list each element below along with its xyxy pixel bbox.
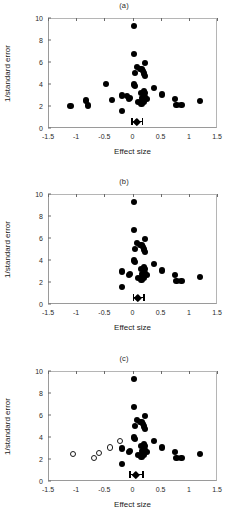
y-axis-tick-mark (48, 40, 51, 41)
y-axis-tick-mark (48, 415, 51, 416)
y-axis-tick-label: 6 (13, 235, 48, 242)
y-axis-tick-label: 2 (13, 103, 48, 110)
y-axis-tick-mark (48, 84, 51, 85)
x-axis-tick-label: 0 (118, 128, 148, 140)
observed-data-point (197, 98, 203, 104)
observed-data-point (103, 81, 109, 87)
x-axis-tick-mark (104, 194, 105, 197)
x-axis-tick-label: -1.5 (33, 304, 63, 316)
observed-data-point (142, 73, 148, 79)
observed-data-point (197, 451, 203, 457)
x-axis-tick-mark (217, 371, 218, 374)
y-axis-tick-mark (48, 393, 51, 394)
summary-error-bar-cap (142, 118, 143, 125)
y-axis-tick-label: 10 (13, 191, 48, 198)
imputed-data-point (117, 438, 123, 444)
x-axis-tick-label: 0.5 (146, 128, 176, 140)
observed-data-point (131, 227, 137, 233)
y-axis-tick-mark (48, 282, 51, 283)
observed-data-point (131, 404, 137, 410)
summary-error-bar-cap (129, 471, 130, 478)
observed-data-point (132, 70, 138, 76)
x-axis-tick-label: 0 (118, 304, 148, 316)
observed-data-point (119, 108, 125, 114)
y-axis-tick-label: 8 (13, 390, 48, 397)
panel-c-plot-area: 0246810-1.5-1-0.500.511.5 (48, 371, 217, 481)
y-axis-tick-mark (48, 216, 51, 217)
x-axis-tick-mark (48, 18, 49, 21)
observed-data-point (119, 445, 125, 451)
y-axis-tick-label: 8 (13, 213, 48, 220)
panel-b-title: (b) (0, 177, 248, 187)
y-axis-tick-label: 10 (13, 15, 48, 22)
x-axis-tick-mark (133, 371, 134, 374)
observed-data-point (126, 449, 132, 455)
y-axis-tick-label: 10 (13, 368, 48, 375)
panel-a-x-axis-title: Effect size (48, 147, 217, 156)
summary-effect-marker (134, 294, 142, 302)
summary-error-bar-cap (143, 294, 144, 301)
y-axis-tick-mark (48, 260, 51, 261)
x-axis-tick-mark (133, 194, 134, 197)
observed-data-point (67, 103, 73, 109)
observed-data-point (132, 259, 138, 265)
observed-data-point (132, 423, 138, 429)
panel-a-plot-area: 0246810-1.5-1-0.500.511.5 (48, 18, 217, 128)
x-axis-tick-mark (189, 194, 190, 197)
y-axis-tick-mark (48, 437, 51, 438)
panel-b-y-axis-label: 1/standard error (3, 221, 12, 278)
observed-data-point (131, 376, 137, 382)
y-axis-tick-mark (48, 459, 51, 460)
observed-data-point (159, 267, 165, 273)
x-axis-tick-mark (217, 18, 218, 21)
y-axis-tick-mark (48, 238, 51, 239)
observed-data-point (131, 199, 137, 205)
panel-c-x-axis-title: Effect size (48, 500, 217, 509)
x-axis-tick-label: -0.5 (89, 128, 119, 140)
x-axis-tick-label: 0 (118, 481, 148, 493)
x-axis-tick-label: 0.5 (146, 304, 176, 316)
panel-c-y-axis-title: 1/standard error (0, 371, 14, 481)
observed-data-point (173, 455, 179, 461)
x-axis-tick-mark (76, 194, 77, 197)
y-axis-tick-label: 2 (13, 279, 48, 286)
observed-data-point (159, 91, 165, 97)
observed-data-point (142, 426, 148, 432)
observed-data-point (126, 96, 132, 102)
observed-data-point (85, 102, 91, 108)
panel-a-y-axis-label: 1/standard error (3, 45, 12, 102)
x-axis-tick-mark (76, 18, 77, 21)
y-axis-tick-mark (48, 106, 51, 107)
imputed-data-point (91, 455, 97, 461)
panel-b-y-axis-title: 1/standard error (0, 194, 14, 304)
x-axis-tick-mark (161, 371, 162, 374)
y-axis-tick-mark (48, 62, 51, 63)
imputed-data-point (96, 450, 102, 456)
x-axis-tick-label: 0.5 (146, 481, 176, 493)
panel-c: (c) 1/standard error 0246810-1.5-1-0.500… (0, 353, 248, 529)
panel-c-title: (c) (0, 354, 248, 364)
y-axis-tick-label: 4 (13, 81, 48, 88)
observed-data-point (138, 101, 144, 107)
observed-data-point (173, 102, 179, 108)
x-axis-tick-mark (189, 371, 190, 374)
observed-data-point (131, 23, 137, 29)
observed-data-point (119, 284, 125, 290)
panel-a-title: (a) (0, 1, 248, 11)
summary-error-bar-cap (142, 471, 143, 478)
x-axis-tick-mark (76, 371, 77, 374)
observed-data-point (132, 246, 138, 252)
x-axis-tick-label: 1 (174, 128, 204, 140)
y-axis-tick-label: 4 (13, 434, 48, 441)
x-axis-tick-label: -1 (61, 481, 91, 493)
observed-data-point (173, 278, 179, 284)
summary-effect-marker (132, 471, 140, 479)
observed-data-point (142, 249, 148, 255)
y-axis-tick-label: 2 (13, 456, 48, 463)
y-axis-tick-label: 6 (13, 412, 48, 419)
x-axis-tick-label: 1.5 (202, 304, 232, 316)
x-axis-tick-label: -0.5 (89, 304, 119, 316)
panel-a-y-axis-title: 1/standard error (0, 18, 14, 128)
observed-data-point (197, 274, 203, 280)
x-axis-tick-mark (133, 18, 134, 21)
